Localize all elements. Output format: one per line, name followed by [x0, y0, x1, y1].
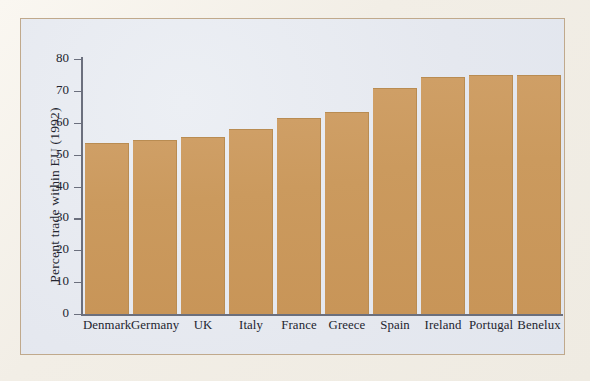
y-axis-tick [74, 155, 82, 156]
y-axis-tick [74, 123, 82, 124]
x-axis-label-ireland: Ireland [419, 318, 467, 333]
x-axis-label-denmark: Denmark [83, 318, 131, 333]
x-axis-label-spain: Spain [371, 318, 419, 333]
bar [421, 77, 465, 314]
bar-series [83, 57, 563, 314]
x-axis-label-uk: UK [179, 318, 227, 333]
y-axis-tick-label-text: 80 [56, 50, 69, 66]
x-axis-line [81, 314, 563, 316]
bar [469, 75, 513, 314]
y-axis-tick-label-text: 0 [63, 305, 70, 321]
y-axis-tick [74, 59, 82, 60]
y-axis-tick [74, 282, 82, 283]
y-axis-tick [74, 250, 82, 251]
x-axis-label-italy: Italy [227, 318, 275, 333]
bar [517, 75, 561, 314]
x-axis-label-germany: Germany [131, 318, 179, 333]
chart-frame: 01020304050607080 Percent trade within E… [20, 18, 565, 355]
x-axis-label-benelux: Benelux [515, 318, 563, 333]
bar [373, 88, 417, 314]
x-axis-label-greece: Greece [323, 318, 371, 333]
y-axis-title: Percent trade within EU (1992) [47, 75, 63, 315]
x-axis-label-france: France [275, 318, 323, 333]
bar [325, 112, 369, 314]
bar [277, 118, 321, 314]
x-axis-label-portugal: Portugal [467, 318, 515, 333]
bar [229, 129, 273, 314]
bar [85, 143, 129, 314]
y-axis-tick [74, 314, 82, 315]
bar [181, 137, 225, 314]
y-axis-tick [74, 187, 82, 188]
y-axis-tick [74, 91, 82, 92]
bar [133, 140, 177, 314]
figure-canvas: 01020304050607080 Percent trade within E… [0, 0, 590, 381]
y-axis-tick [74, 218, 82, 219]
